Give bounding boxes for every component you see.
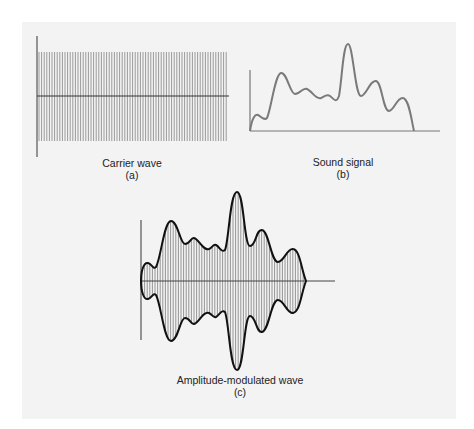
sound-signal-letter: (b) <box>313 168 374 180</box>
modulation-diagram <box>0 0 474 429</box>
sound-signal-caption: Sound signal (b) <box>313 156 374 180</box>
sound-signal-title: Sound signal <box>313 156 374 168</box>
am-wave-plot <box>141 185 335 375</box>
am-wave-letter: (c) <box>177 386 304 398</box>
am-wave-caption: Amplitude-modulated wave (c) <box>177 374 304 398</box>
sound-curve <box>250 44 414 131</box>
carrier-wave-caption: Carrier wave (a) <box>102 157 162 181</box>
carrier-wave-plot <box>37 36 229 157</box>
carrier-wave-letter: (a) <box>102 169 162 181</box>
am-wave-title: Amplitude-modulated wave <box>177 374 304 386</box>
am-carrier-oscillation <box>142 185 306 375</box>
carrier-wave-title: Carrier wave <box>102 157 162 169</box>
sound-signal-plot <box>250 44 440 131</box>
